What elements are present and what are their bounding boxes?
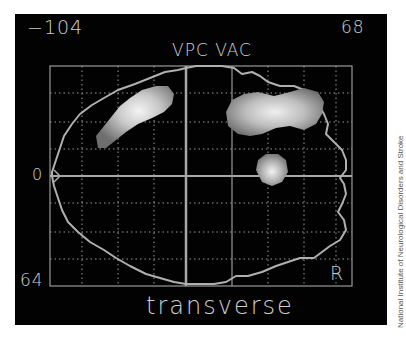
plane-label: transverse [146,292,294,320]
orientation-marker: R [330,262,344,284]
top-left-value: −104 [27,16,83,38]
left-axis-marker: 0 [32,165,43,184]
scan-title: VPC VAC [172,40,252,60]
bottom-left-value: 64 [20,270,44,290]
top-right-value: 68 [341,17,365,37]
activity-region-small [256,154,288,186]
image-credit: National Institute of Neurological Disor… [396,135,405,328]
activity-region-right [226,88,324,136]
